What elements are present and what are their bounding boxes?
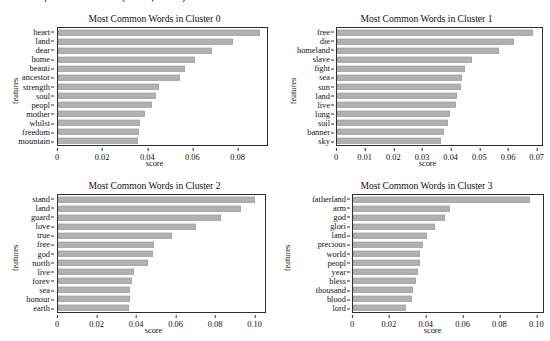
y-tick-label: free: [317, 27, 330, 36]
y-tick-label: year: [332, 267, 346, 276]
bar-row: [58, 195, 265, 204]
bar: [58, 65, 185, 71]
bar: [353, 268, 418, 274]
y-tick-labels: standlandguardlovetruefreegodnorthlivefo…: [8, 194, 54, 313]
bar-row: [337, 100, 542, 109]
y-tick-label: stand: [32, 194, 50, 203]
y-tick-label: fatherland: [312, 194, 346, 203]
bar-row: [58, 240, 265, 249]
bar-row: [58, 64, 267, 73]
chart-title: Most Common Words in Cluster 1: [275, 13, 550, 24]
bar-row: [58, 213, 265, 222]
bar-row: [337, 136, 542, 145]
y-tick-label: soul: [36, 91, 50, 100]
plot-area: [57, 194, 266, 313]
y-tick-label: world: [326, 249, 346, 258]
bar: [353, 241, 423, 247]
bar: [353, 205, 450, 211]
bar: [353, 286, 413, 292]
bar: [353, 214, 445, 220]
bar-row: [353, 285, 543, 294]
bar-row: [353, 258, 543, 267]
y-tick-label: land: [36, 203, 50, 212]
bar-row: [58, 73, 267, 82]
bar: [58, 110, 145, 116]
bar-row: [353, 195, 543, 204]
chart-cluster-3: Most Common Words in Cluster 3 features …: [275, 175, 550, 341]
y-tick-label: slave: [313, 55, 330, 64]
y-tick-label: sun: [318, 82, 330, 91]
bar: [58, 268, 134, 274]
bar: [58, 295, 130, 301]
bar-row: [58, 136, 267, 145]
bar: [58, 232, 172, 238]
bar: [337, 92, 457, 98]
bar-row: [353, 267, 543, 276]
bar-row: [353, 303, 543, 312]
bar: [58, 223, 196, 229]
bar-row: [337, 91, 542, 100]
bar: [58, 205, 241, 211]
bar: [58, 128, 139, 134]
bar: [58, 83, 159, 89]
bar-row: [58, 91, 267, 100]
bar: [353, 223, 435, 229]
bar: [58, 101, 152, 107]
bar: [353, 232, 427, 238]
y-tick-label: peopl: [327, 258, 346, 267]
bar-row: [353, 294, 543, 303]
y-tick-label: banner: [307, 128, 330, 137]
bar-row: [337, 82, 542, 91]
bar-row: [58, 222, 265, 231]
bar: [58, 56, 195, 62]
bar: [337, 110, 450, 116]
subplot-grid: Most Common Words in Cluster 0 features …: [0, 8, 550, 341]
bar-row: [58, 100, 267, 109]
y-tick-label: strength: [23, 82, 50, 91]
y-tick-label: soil: [318, 119, 330, 128]
bar-row: [58, 276, 265, 285]
bar-row: [353, 240, 543, 249]
y-tick-label: love: [36, 222, 50, 231]
y-tick-label: freedom: [22, 128, 50, 137]
clipped-code-fragment: potential (220, 13): [44, 0, 188, 3]
y-tick-label: land: [316, 91, 330, 100]
y-tick-label: home: [31, 55, 50, 64]
bar-row: [58, 231, 265, 240]
y-tick-label: land: [332, 231, 346, 240]
bar-row: [58, 118, 267, 127]
bar: [353, 259, 420, 265]
bar: [58, 92, 156, 98]
x-axis-label: score: [0, 159, 275, 168]
bar: [58, 277, 132, 283]
bar: [337, 74, 462, 80]
bar: [337, 83, 461, 89]
bar-series: [353, 195, 543, 312]
bar: [337, 29, 533, 35]
y-tick-label: arm: [333, 203, 346, 212]
y-tick-label: long: [315, 109, 330, 118]
bar-row: [353, 213, 543, 222]
bar-row: [58, 82, 267, 91]
bar: [337, 101, 456, 107]
y-tick-label: guard: [31, 212, 50, 221]
y-tick-label: earth: [33, 304, 50, 313]
bar-row: [58, 127, 267, 136]
y-tick-label: honour: [26, 295, 50, 304]
y-tick-label: north: [32, 258, 50, 267]
y-tick-label: beauti: [30, 64, 50, 73]
y-tick-label: bless: [329, 276, 346, 285]
y-tick-label: lord: [333, 304, 347, 313]
y-tick-label: whilst: [30, 119, 50, 128]
bar: [58, 259, 148, 265]
plot-area: [336, 27, 543, 146]
y-tick-label: homeland: [297, 45, 330, 54]
bar: [337, 47, 499, 53]
y-tick-label: free: [37, 240, 50, 249]
chart-cluster-1: Most Common Words in Cluster 1 features …: [275, 8, 550, 174]
y-tick-label: sea: [319, 73, 330, 82]
bar-row: [58, 285, 265, 294]
bar-series: [58, 28, 267, 145]
y-tick-label: forev: [32, 276, 50, 285]
bar-row: [337, 28, 542, 37]
